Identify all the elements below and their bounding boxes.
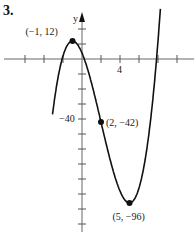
point-label: (2, −42) <box>106 117 138 129</box>
y-axis-label: y <box>73 13 78 24</box>
cubic-graph: y4−40(−1, 12)(2, −42)(5, −96) <box>0 0 196 240</box>
point-label: (5, −96) <box>113 211 145 223</box>
cubic-curve <box>53 9 161 203</box>
y-tick-label: −40 <box>59 113 75 124</box>
point-label: (−1, 12) <box>26 26 58 38</box>
critical-point-marker <box>127 200 133 206</box>
x-tick-label: 4 <box>117 64 122 75</box>
critical-point-marker <box>98 119 104 125</box>
y-axis-arrow-icon <box>79 12 85 22</box>
critical-point-marker <box>70 38 76 44</box>
